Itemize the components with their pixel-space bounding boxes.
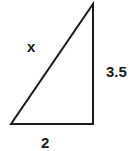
vertical-leg-label: 3.5 [106, 63, 127, 80]
horizontal-leg-label: 2 [41, 134, 49, 151]
triangle-shape [11, 4, 93, 124]
hypotenuse-label: x [27, 38, 36, 55]
right-triangle-diagram: x 3.5 2 [0, 0, 131, 151]
